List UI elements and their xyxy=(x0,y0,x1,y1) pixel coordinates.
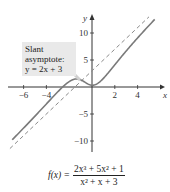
x-tick-label: 2 xyxy=(113,90,118,100)
y-axis-label: y xyxy=(82,13,87,23)
formula-numerator: 2x³ + 5x² + 1 xyxy=(73,164,125,176)
slant-asymptote-annotation: Slant asymptote: y = 2x + 3 xyxy=(22,42,76,76)
formula-denominator: x² + x + 3 xyxy=(80,176,117,187)
annotation-line-1: Slant xyxy=(25,44,73,54)
annotation-line-3: y = 2x + 3 xyxy=(25,64,73,74)
function-formula: f(x) = 2x³ + 5x² + 1 x² + x + 3 xyxy=(48,162,125,188)
y-tick-label: 10 xyxy=(79,28,89,38)
y-tick-label: 5 xyxy=(84,55,89,65)
graph-plot: −6−424105−5−10xy xyxy=(0,0,170,160)
y-tick-label: −10 xyxy=(74,136,89,146)
annotation-line-2: asymptote: xyxy=(25,54,73,64)
formula-fraction: 2x³ + 5x² + 1 x² + x + 3 xyxy=(73,164,125,187)
x-axis-label: x xyxy=(162,90,167,100)
x-axis-arrow-icon xyxy=(160,85,165,90)
y-axis-arrow-icon xyxy=(90,14,95,20)
x-tick-label: −6 xyxy=(19,90,29,100)
formula-lhs: f(x) = xyxy=(48,170,70,180)
x-tick-label: 4 xyxy=(135,90,140,100)
y-tick-label: −5 xyxy=(78,109,88,119)
axes: −6−424105−5−10xy xyxy=(8,13,167,152)
x-tick-label: −4 xyxy=(42,90,52,100)
